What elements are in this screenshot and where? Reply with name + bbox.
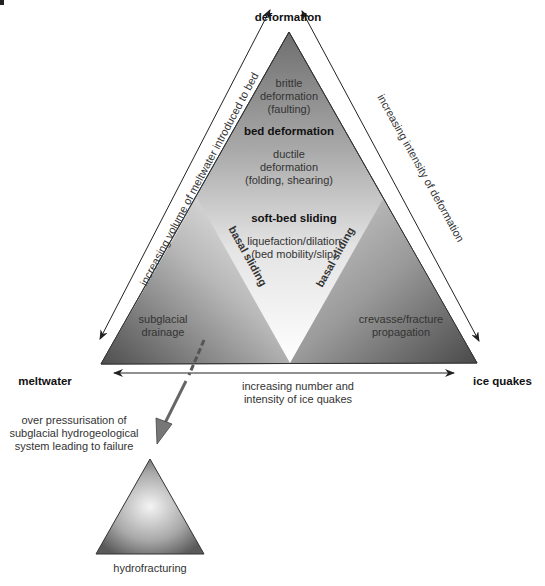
failure-arrow-shaft xyxy=(165,381,186,423)
subglacial-drainage-label: subglacial drainage xyxy=(128,313,198,339)
ductile-deformation-label: ductile deformation (folding, shearing) xyxy=(224,148,354,187)
vertex-label-deformation: deformation xyxy=(238,11,338,24)
vertex-label-ice-quakes: ice quakes xyxy=(465,375,540,388)
soft-bed-sliding-label: soft-bed sliding xyxy=(234,212,354,225)
failure-arrowhead xyxy=(156,418,172,444)
bottom-axis-label: increasing number and intensity of ice q… xyxy=(223,380,373,406)
crevasse-propagation-label: crevasse/fracture propagation xyxy=(346,313,456,339)
hydrofracturing-triangle xyxy=(96,459,204,554)
bed-deformation-label: bed deformation xyxy=(229,125,349,138)
vertex-label-meltwater: meltwater xyxy=(10,375,80,388)
failure-caption: over pressurisation of subglacial hydrog… xyxy=(0,414,148,453)
hydrofracturing-label: hydrofracturing xyxy=(100,562,200,575)
